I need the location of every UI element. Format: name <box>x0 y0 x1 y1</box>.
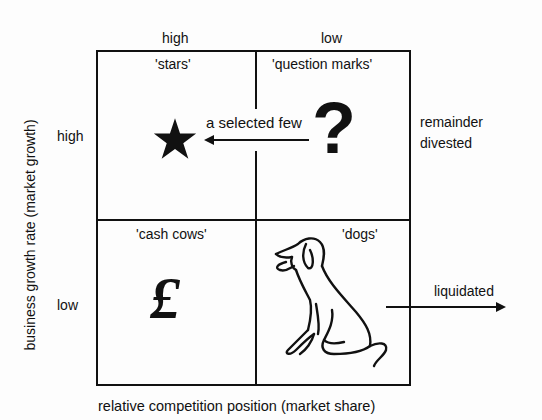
column-header-high: high <box>162 30 188 46</box>
quadrant-label-question-marks: 'question marks' <box>272 56 372 72</box>
arrow-right-icon <box>386 301 506 313</box>
grid-border-top <box>96 50 411 52</box>
grid-divider-vertical-lower <box>255 151 257 386</box>
dog-icon <box>262 230 402 370</box>
annotation-divested: divested <box>420 135 472 151</box>
grid-border-right <box>409 50 411 386</box>
y-axis-label: business growth rate (market growth) <box>22 119 38 350</box>
grid-border-bottom <box>96 384 411 386</box>
star-icon <box>152 116 198 162</box>
pound-sign-icon: £ <box>150 268 180 328</box>
grid-divider-horizontal <box>96 219 411 221</box>
quadrant-label-cash-cows: 'cash cows' <box>136 226 207 242</box>
grid-border-left <box>96 50 98 386</box>
column-header-low: low <box>321 30 342 46</box>
row-header-low: low <box>57 297 78 313</box>
annotation-selected-few: a selected few <box>206 114 302 131</box>
x-axis-label: relative competition position (market sh… <box>98 398 375 414</box>
row-header-high: high <box>57 128 83 144</box>
quadrant-label-stars: 'stars' <box>155 56 191 72</box>
annotation-remainder: remainder <box>420 114 483 130</box>
annotation-liquidated: liquidated <box>434 283 494 299</box>
grid-divider-vertical-upper <box>255 50 257 109</box>
question-mark-icon: ? <box>312 88 356 168</box>
arrow-left-icon <box>204 134 314 146</box>
